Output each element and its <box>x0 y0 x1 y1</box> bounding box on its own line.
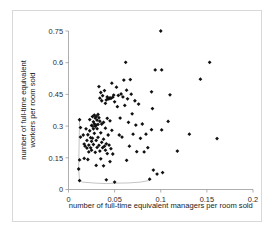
y-tick-label: 0.45 <box>49 90 63 99</box>
y-tick-label: 0.3 <box>53 122 63 131</box>
data-point <box>111 152 115 156</box>
data-point <box>78 118 82 122</box>
data-point <box>150 90 154 94</box>
data-point <box>105 116 109 120</box>
data-point <box>110 128 114 132</box>
data-point <box>99 131 103 135</box>
data-point <box>137 102 141 106</box>
data-point <box>97 85 101 89</box>
data-point <box>109 147 113 151</box>
data-point <box>104 126 108 130</box>
data-point <box>98 149 102 153</box>
data-point <box>187 132 191 136</box>
data-point <box>99 91 103 95</box>
data-point <box>85 139 89 143</box>
data-point <box>125 88 129 92</box>
data-point <box>78 179 82 183</box>
data-point <box>96 135 100 139</box>
data-point <box>77 167 81 171</box>
data-point <box>87 143 91 147</box>
data-point <box>166 120 170 124</box>
data-point <box>115 85 119 89</box>
data-point <box>118 116 122 120</box>
data-point <box>128 78 132 82</box>
data-point <box>88 129 92 133</box>
data-point <box>131 132 135 136</box>
data-point <box>92 143 96 147</box>
data-point <box>121 95 125 99</box>
data-point <box>168 93 172 97</box>
data-point <box>159 29 163 33</box>
scatter-plot: 00.150.30.450.60.75 00.050.10.150.2 numb… <box>0 0 273 240</box>
data-point <box>108 160 112 164</box>
data-point <box>160 68 164 72</box>
data-point <box>78 158 82 162</box>
data-point <box>110 81 114 85</box>
data-point <box>175 149 179 153</box>
data-point <box>135 150 139 154</box>
data-point <box>108 119 112 123</box>
data-point <box>94 164 98 168</box>
data-point <box>92 131 96 135</box>
data-point <box>88 118 92 122</box>
data-point <box>150 128 154 132</box>
data-point <box>122 78 126 82</box>
data-point <box>133 99 137 103</box>
data-point <box>103 89 107 93</box>
data-point <box>105 152 109 156</box>
x-axis-title: number of full-time equivalent managers … <box>69 201 253 210</box>
data-point <box>104 148 108 152</box>
data-point <box>113 100 117 104</box>
data-point <box>82 157 86 161</box>
data-point <box>104 101 108 105</box>
data-point <box>100 140 104 144</box>
data-point <box>126 97 130 101</box>
data-point <box>134 123 138 127</box>
y-axis-title-line-1: number of full-time equivalent <box>19 59 28 160</box>
data-point <box>94 139 98 143</box>
data-point <box>102 137 106 141</box>
data-point <box>125 158 129 162</box>
data-point <box>140 122 144 126</box>
data-point <box>142 150 146 154</box>
data-point <box>155 172 159 176</box>
y-axis-title-line-2: workers per room sold <box>28 72 37 148</box>
data-point <box>151 168 155 172</box>
data-point <box>102 164 106 168</box>
data-point <box>199 77 203 81</box>
data-points-group <box>77 29 219 184</box>
data-point <box>161 171 165 175</box>
data-point <box>101 94 105 98</box>
y-tick-labels: 00.150.30.450.60.75 <box>49 27 63 195</box>
data-point <box>84 127 88 131</box>
data-point <box>127 120 131 124</box>
data-point <box>115 105 119 109</box>
data-point <box>151 107 155 111</box>
y-tick-label: 0.15 <box>49 154 63 163</box>
data-point <box>99 157 103 161</box>
tick-marks-group <box>66 31 254 193</box>
data-point <box>81 133 85 137</box>
data-point <box>86 133 90 137</box>
y-tick-label: 0.75 <box>49 27 63 36</box>
figure-container: 00.150.30.450.60.75 00.050.10.150.2 numb… <box>0 0 273 240</box>
data-point <box>139 136 143 140</box>
data-point <box>120 135 124 139</box>
data-point <box>208 60 212 64</box>
data-point <box>146 146 150 150</box>
data-point <box>144 132 148 136</box>
data-point <box>215 137 219 141</box>
data-point <box>93 150 97 154</box>
data-point <box>127 144 131 148</box>
data-point <box>90 139 94 143</box>
data-point <box>124 60 128 64</box>
data-point <box>104 178 108 182</box>
data-point <box>86 158 90 162</box>
data-point <box>106 133 110 137</box>
data-point <box>129 92 133 96</box>
data-point <box>130 112 134 116</box>
y-tick-label: 0 <box>59 185 63 194</box>
data-point <box>153 68 157 72</box>
data-point <box>123 103 127 107</box>
data-point <box>160 128 164 132</box>
